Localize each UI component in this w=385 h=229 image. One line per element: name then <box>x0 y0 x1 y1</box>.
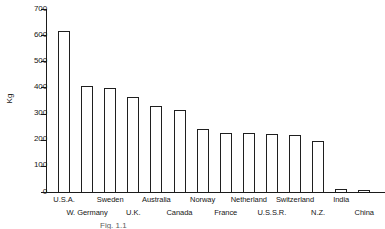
y-axis-tick-label: 700 <box>12 5 47 14</box>
y-axis-label: Kg <box>5 92 14 106</box>
y-axis-tick-label: 400 <box>12 83 47 92</box>
x-axis-line <box>41 192 385 193</box>
y-axis-tick-label: 200 <box>12 135 47 144</box>
y-axis-tick-label-text: 700 <box>23 5 47 13</box>
bar <box>266 134 278 192</box>
y-axis-tick-label: 600 <box>12 31 47 40</box>
y-axis-tick-label-text: 100 <box>23 161 47 169</box>
bar <box>150 106 162 192</box>
bar <box>289 135 301 192</box>
y-axis-tick-label: 300 <box>12 109 47 118</box>
bar <box>81 86 93 192</box>
plot-area <box>46 9 385 192</box>
y-axis-tick-label-text: 500 <box>23 57 47 65</box>
bar <box>220 133 232 192</box>
bar-chart-figure: Kg 0100200300400500600700 U.S.A.W. Germa… <box>0 0 385 229</box>
bar <box>358 190 370 192</box>
bar <box>174 110 186 192</box>
y-axis-tick-label-text: 600 <box>23 31 47 39</box>
bar <box>127 97 139 192</box>
x-axis-category-label: China <box>324 208 385 217</box>
bar <box>243 133 255 192</box>
bar <box>335 189 347 192</box>
x-axis-category-label: India <box>301 195 381 204</box>
y-axis-tick-label: 500 <box>12 57 47 66</box>
bar <box>58 31 70 192</box>
y-axis-tick-label-text: 200 <box>23 135 47 143</box>
bar <box>312 141 324 192</box>
figure-caption: Fig. 1.1 <box>100 221 127 229</box>
y-axis-tick-label-text: 400 <box>23 83 47 91</box>
bar <box>197 129 209 192</box>
y-axis-tick-label-text: 300 <box>23 109 47 117</box>
y-axis-tick-label: 100 <box>12 161 47 170</box>
bar <box>104 88 116 192</box>
